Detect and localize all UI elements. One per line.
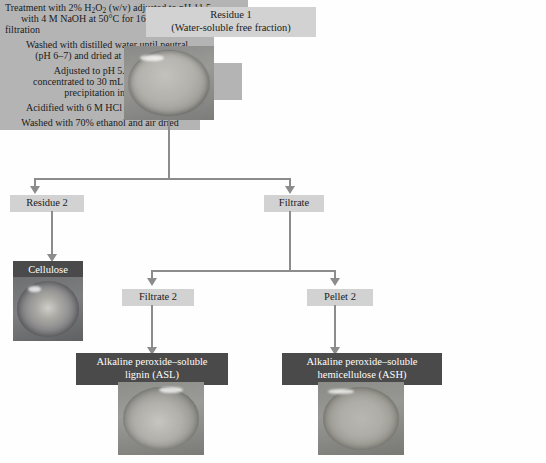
dish-glint [328,389,354,394]
node-residue-2: Residue 2 [10,195,84,212]
arrowhead-to-filtrate-2 [147,278,157,286]
connector-split-bar-2 [152,270,336,272]
petri-dish-residue1-photo [124,46,214,120]
node-pellet-2: Pellet 2 [307,289,373,306]
node-alkaline-peroxide-soluble-lignin: Alkaline peroxide–soluble lignin (ASL) [76,353,228,385]
dish-shape-residue1 [129,51,208,115]
dish-glint [28,286,41,292]
connector-pellet2-to-ash [334,305,336,349]
dish-glint [140,55,163,61]
dish-shape-cellulose [17,281,79,336]
arrowhead-to-filtrate [285,186,295,194]
arrowhead-to-residue-2 [30,186,40,194]
node-filtrate-2: Filtrate 2 [122,289,194,306]
petri-dish-ash-photo [318,382,404,455]
dish-glint [159,387,183,393]
connector-filtrate2-to-asl [151,305,153,349]
dish-shape-ash [323,387,399,450]
connector-residue1-to-split [168,120,170,179]
petri-dish-cellulose-photo [13,277,83,341]
node-alkaline-peroxide-soluble-hemicellulose: Alkaline peroxide–soluble hemicellulose … [282,353,442,385]
petri-dish-asl-photo [118,382,204,455]
node-filtrate: Filtrate [264,195,324,212]
connector-residue2-to-cellulose [51,211,53,256]
dish-shape-asl [123,387,199,450]
connector-split-bar-1 [35,178,291,180]
flowchart-diagram: Residue 1 (Water-soluble free fraction) … [0,0,546,463]
arrowhead-to-pellet-2 [330,278,340,286]
connector-filtrate-to-split2 [289,211,291,271]
node-residue-1: Residue 1 (Water-soluble free fraction) [146,7,316,37]
